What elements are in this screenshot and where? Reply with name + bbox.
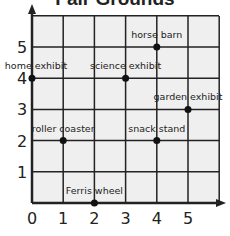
point-marker [122,75,129,82]
point-marker [185,106,192,113]
coordinate-grid: 012345 12345 horse barnhome exhibitscien… [0,0,230,236]
point-label: science exhibit [90,60,161,71]
x-tick-label: 3 [121,209,131,228]
point-marker [153,137,160,144]
y-tick-label: 4 [17,69,27,88]
point-label: horse barn [131,29,182,40]
y-tick-label: 3 [17,100,27,119]
x-tick-labels: 012345 [27,209,193,228]
point-marker [29,75,36,82]
point-label: roller coaster [32,123,95,134]
x-tick-label: 1 [58,209,68,228]
x-axis-arrow-icon [216,199,226,207]
point-label: snack stand [128,123,185,134]
y-tick-label: 5 [17,38,27,57]
point-marker [153,44,160,51]
x-tick-label: 4 [152,209,162,228]
x-tick-label: 0 [27,209,37,228]
point-label: home exhibit [5,60,68,71]
point-label: garden exhibit [154,91,223,102]
y-tick-label: 1 [17,163,27,182]
point-marker [60,137,67,144]
x-tick-label: 2 [89,209,99,228]
point-marker [91,200,98,207]
point-label: Ferris wheel [66,185,123,196]
x-tick-label: 5 [183,209,193,228]
y-tick-label: 2 [17,132,27,151]
y-axis-arrow-icon [28,4,36,14]
